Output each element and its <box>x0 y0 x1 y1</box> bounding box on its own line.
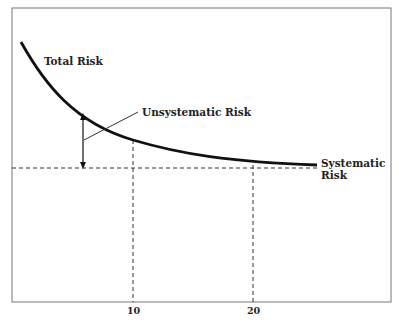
risk-chart: Total Risk Unsystematic Risk Systematic … <box>0 0 399 323</box>
label-unsystematic-risk: Unsystematic Risk <box>142 106 252 118</box>
tick-20: 20 <box>247 305 261 316</box>
leader-line <box>84 112 138 140</box>
tick-10: 10 <box>127 305 141 316</box>
label-total-risk: Total Risk <box>44 55 104 67</box>
label-systematic: Systematic <box>321 157 385 169</box>
label-systematic-risk: Risk <box>321 169 348 181</box>
